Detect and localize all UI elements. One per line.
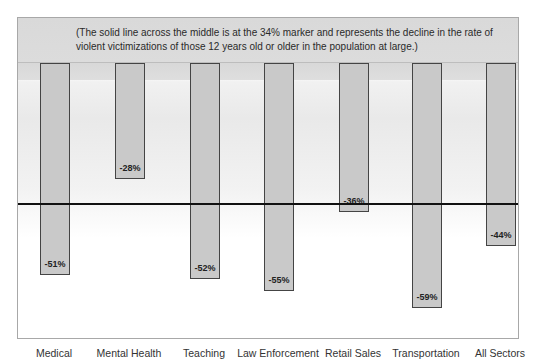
- bar-transportation: -59%: [412, 63, 442, 308]
- bar-mental-health: -28%: [115, 63, 145, 179]
- reference-line-34pct: [18, 203, 518, 205]
- bar-all-sectors: -44%: [486, 63, 516, 246]
- bar-medical: -51%: [40, 63, 70, 275]
- bar-value-label: -36%: [340, 196, 368, 206]
- chart-note: (The solid line across the middle is at …: [76, 26, 506, 54]
- bar-value-label: -55%: [265, 275, 293, 285]
- cut-off-title: [70, 0, 73, 5]
- bar-value-label: -44%: [487, 230, 515, 240]
- note-band: (The solid line across the middle is at …: [18, 18, 518, 63]
- bar-value-label: -52%: [191, 263, 219, 273]
- bar-value-label: -59%: [413, 292, 441, 302]
- bar-teaching: -52%: [190, 63, 220, 279]
- chart-plot-area: (The solid line across the middle is at …: [17, 17, 519, 339]
- bar-value-label: -28%: [116, 163, 144, 173]
- x-axis-label: All Sectors: [455, 347, 545, 359]
- bar-retail-sales: -36%: [339, 63, 369, 212]
- bar-value-label: -51%: [41, 259, 69, 269]
- bar-law-enforcement: -55%: [264, 63, 294, 291]
